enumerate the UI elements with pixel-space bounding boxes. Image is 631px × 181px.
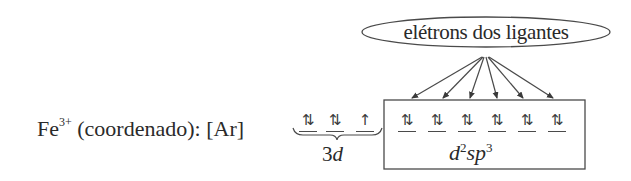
orbital-hybrid-3: ⇅	[458, 111, 476, 132]
label-3d-letter: d	[333, 142, 344, 166]
orbital-hybrid-6: ⇅	[548, 111, 566, 132]
label-3d: 3d	[322, 142, 343, 167]
arrow-5	[488, 57, 523, 98]
orbital-3d-2: ⇅	[326, 111, 344, 132]
label-3d-number: 3	[322, 142, 333, 166]
label-p-exponent: 3	[486, 140, 493, 155]
charge: 3+	[59, 115, 72, 129]
orbital-hybrid-2: ⇅	[428, 111, 446, 132]
orbital-3d-1: ⇅	[299, 111, 317, 132]
ligand-electrons-label: elétrons dos ligantes	[362, 17, 610, 47]
ligand-arrows	[412, 57, 553, 98]
orbital-3d-3: ↑	[356, 111, 374, 132]
orbital-hybrid-1: ⇅	[398, 111, 416, 132]
label-sp: sp	[467, 140, 487, 165]
ion-description: (coordenado): [Ar]	[77, 116, 244, 141]
orbital-hybrid-4: ⇅	[488, 111, 506, 132]
orbital-hybrid-5: ⇅	[518, 111, 536, 132]
label-d2sp3: d2sp3	[449, 140, 493, 166]
element-symbol: Fe	[37, 116, 59, 141]
arrow-4	[486, 57, 497, 98]
ion-label: Fe3+ (coordenado): [Ar]	[37, 116, 244, 142]
arrow-6	[489, 57, 553, 98]
label-d: d	[449, 140, 460, 165]
